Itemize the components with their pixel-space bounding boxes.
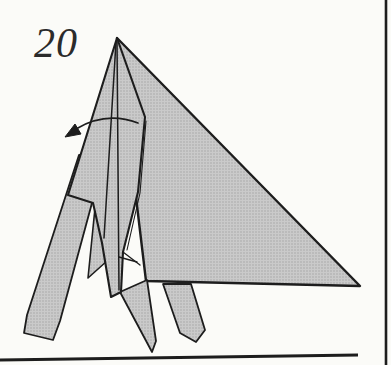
fold-direction-arrow-head <box>65 124 81 137</box>
middle-leg <box>120 280 156 352</box>
origami-shapes-layer <box>24 38 360 352</box>
right-leg <box>163 284 205 342</box>
origami-figure-svg <box>0 0 391 365</box>
book-page: 20 <box>0 0 391 365</box>
page-bottom-rule <box>0 355 358 360</box>
rear-wing-triangle <box>117 38 360 286</box>
